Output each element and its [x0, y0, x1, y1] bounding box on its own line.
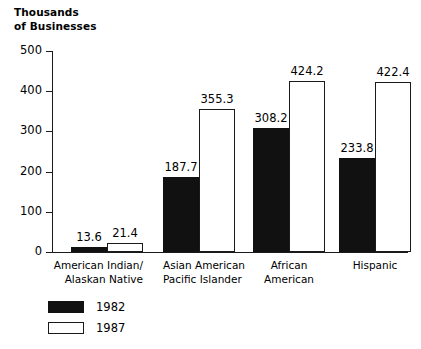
legend-label-1987: 1987	[96, 322, 125, 334]
category-label-3-line-2: American	[237, 272, 341, 286]
y-axis-title: Thousands of Businesses	[14, 6, 97, 33]
category-label-1-line-2: Alaskan Native	[39, 272, 143, 286]
bar-1987-group-2	[199, 109, 235, 252]
bar-value-label-1987-group-1: 21.4	[95, 227, 155, 239]
legend-item-1982: 1982	[48, 298, 125, 316]
y-tick-label-0: 0	[0, 246, 42, 258]
y-axis-line	[52, 51, 53, 253]
y-tick-0	[46, 252, 52, 253]
y-tick-200	[46, 172, 52, 173]
y-tick-100	[46, 212, 52, 213]
bar-1982-group-1	[71, 247, 107, 252]
category-label-1-line-1: American Indian/	[39, 258, 143, 272]
bar-1987-group-3	[289, 81, 325, 252]
y-tick-label-500: 500	[0, 45, 42, 57]
bar-value-label-1987-group-4: 422.4	[363, 66, 421, 78]
y-tick-label-400: 400	[0, 85, 42, 97]
y-tick-500	[46, 51, 52, 52]
y-tick-label-100: 100	[0, 206, 42, 218]
legend-swatch-1982	[48, 301, 84, 313]
bar-chart: Thousands of Businesses 0100200300400500…	[0, 0, 421, 349]
legend-swatch-1987	[48, 322, 84, 334]
bar-value-label-1987-group-3: 424.2	[277, 65, 337, 77]
bar-value-label-1987-group-2: 355.3	[187, 93, 247, 105]
y-tick-300	[46, 131, 52, 132]
bar-1982-group-2	[163, 177, 199, 252]
y-axis-title-line-1: Thousands	[14, 6, 79, 18]
x-axis-line	[52, 252, 408, 253]
category-label-4-line-1: Hispanic	[323, 258, 421, 272]
legend-label-1982: 1982	[96, 301, 125, 313]
category-label-1: American Indian/Alaskan Native	[39, 258, 143, 286]
bar-1982-group-4	[339, 158, 375, 252]
category-label-4: Hispanic	[323, 258, 421, 272]
y-tick-label-300: 300	[0, 125, 42, 137]
bar-1982-group-3	[253, 128, 289, 252]
y-axis-title-line-2: of Businesses	[14, 20, 97, 32]
legend: 1982 1987	[48, 298, 125, 340]
y-tick-label-200: 200	[0, 166, 42, 178]
bar-1987-group-1	[107, 243, 143, 252]
y-tick-400	[46, 91, 52, 92]
bar-1987-group-4	[375, 82, 411, 252]
legend-item-1987: 1987	[48, 319, 125, 337]
